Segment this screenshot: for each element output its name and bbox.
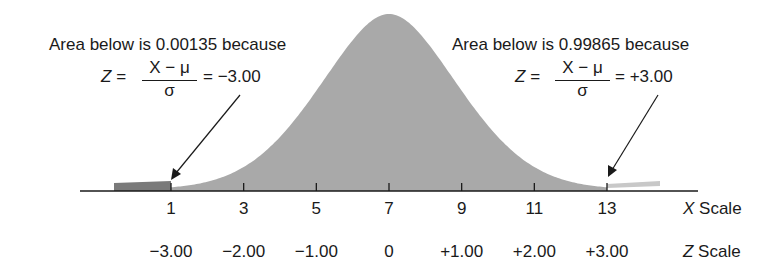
left-formula-numerator: X − μ — [142, 58, 197, 78]
right-formula-rhs: = +3.00 — [615, 67, 673, 87]
right-formula-numerator: X − μ — [555, 58, 610, 78]
x-tick-label: 5 — [312, 199, 321, 219]
z-scale-title: Z Scale — [683, 242, 741, 262]
right-formula-fraction: X − μ σ — [555, 58, 610, 106]
right-tail-area — [607, 181, 660, 188]
x-tick-label: 7 — [384, 199, 393, 219]
z-tick-label: +1.00 — [440, 242, 483, 262]
z-tick-label: +2.00 — [513, 242, 556, 262]
left-arrow — [171, 95, 240, 180]
x-tick-label: 11 — [526, 199, 544, 219]
x-tick-label: 13 — [598, 199, 617, 219]
right-formula-denominator: σ — [555, 81, 610, 101]
left-formula-fraction: X − μ σ — [142, 58, 197, 106]
left-formula-denominator: σ — [142, 81, 197, 101]
right-formula-lhs: Z = — [515, 67, 540, 87]
left-formula-rhs: = −3.00 — [203, 67, 261, 87]
x-scale-title: X Scale — [683, 199, 742, 219]
x-tick-label: 3 — [239, 199, 248, 219]
z-tick-label: −3.00 — [149, 242, 192, 262]
right-annotation-text: Area below is 0.99865 because — [452, 35, 689, 55]
x-tick-label: 1 — [166, 199, 175, 219]
left-formula-lhs: Z = — [101, 67, 126, 87]
left-tail-area — [114, 181, 171, 191]
x-tick-label: 9 — [457, 199, 466, 219]
right-arrow — [608, 95, 658, 177]
left-annotation-text: Area below is 0.00135 because — [49, 35, 286, 55]
z-tick-label: −1.00 — [295, 242, 338, 262]
z-tick-label: +3.00 — [585, 242, 628, 262]
z-tick-label: 0 — [384, 242, 393, 262]
z-tick-label: −2.00 — [222, 242, 265, 262]
